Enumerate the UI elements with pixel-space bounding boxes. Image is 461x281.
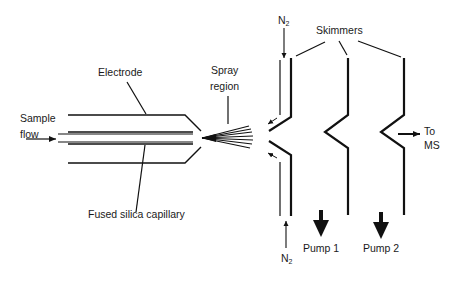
to-ms-label: To MS — [424, 125, 440, 151]
skimmers-leader-3 — [358, 41, 401, 57]
fused-silica-label: Fused silica capillary — [88, 208, 185, 220]
esi-diagram — [0, 0, 461, 281]
electrode-upper — [68, 115, 201, 131]
spray-region-label: Spray region — [210, 64, 239, 92]
electrode-label: Electrode — [98, 66, 142, 78]
electrode-lower — [68, 147, 201, 163]
skimmers-leader-1 — [296, 42, 325, 56]
n2-flow-arrow-bottom — [268, 153, 277, 158]
pump-2-label: Pump 2 — [363, 242, 399, 254]
n2-bottom-label: N2 — [281, 252, 293, 268]
skimmer-3 — [381, 58, 404, 215]
sample-flow-label: Sample flow — [20, 112, 56, 140]
pump-1-label: Pump 1 — [303, 242, 339, 254]
skimmers-leader-2 — [339, 41, 347, 55]
electrode-leader — [127, 82, 146, 114]
capillary-leader — [136, 145, 145, 212]
skimmer-2 — [325, 58, 348, 215]
pump-1-arrow — [313, 210, 329, 237]
spray-cone — [202, 134, 216, 142]
pump-2-arrow — [373, 212, 389, 239]
skimmers-label: Skimmers — [316, 24, 363, 36]
n2-top-label: N2 — [278, 14, 290, 30]
n2-flow-arrow-top — [268, 118, 277, 124]
